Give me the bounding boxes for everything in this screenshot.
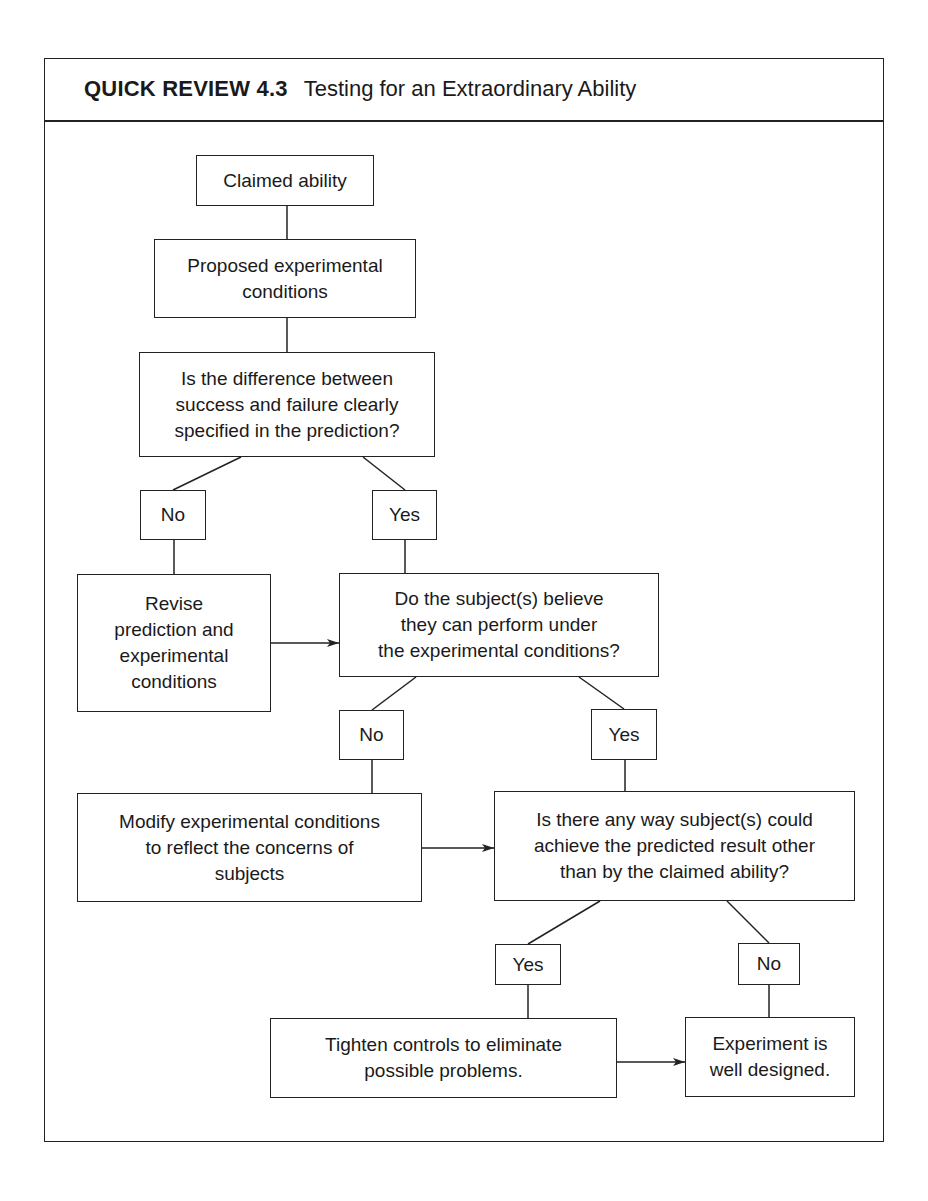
q1-no-label: No <box>140 490 206 540</box>
tighten-controls-box: Tighten controls to eliminate possible p… <box>270 1018 617 1098</box>
question-subject-belief-box: Do the subject(s) believe they can perfo… <box>339 573 659 677</box>
q3-yes-label: Yes <box>495 944 561 985</box>
q1-yes-label: Yes <box>372 490 437 540</box>
question-alternative-explanation-box: Is there any way subject(s) could achiev… <box>494 791 855 901</box>
proposed-conditions-box: Proposed experimental conditions <box>154 239 416 318</box>
experiment-well-designed-box: Experiment is well designed. <box>685 1017 855 1097</box>
q2-yes-label: Yes <box>591 709 657 760</box>
modify-conditions-box: Modify experimental conditions to reflec… <box>77 793 422 902</box>
q2-no-label: No <box>339 710 404 760</box>
q3-no-label: No <box>738 943 800 985</box>
question-success-failure-box: Is the difference between success and fa… <box>139 352 435 457</box>
claimed-ability-box: Claimed ability <box>196 155 374 206</box>
revise-prediction-box: Revise prediction and experimental condi… <box>77 574 271 712</box>
